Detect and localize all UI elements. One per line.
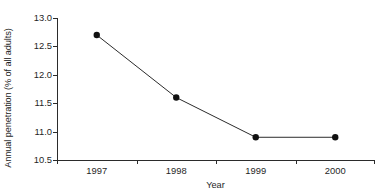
x-axis-title: Year	[0, 180, 385, 190]
x-axis-tick-mark	[57, 160, 58, 164]
y-axis-tick-mark	[53, 18, 57, 19]
x-axis-tick-mark	[137, 160, 138, 164]
x-axis-tick-label-group: 1997199819992000	[57, 166, 375, 180]
x-axis-tick-label: 2000	[305, 166, 365, 175]
x-axis-tick-mark	[216, 160, 217, 164]
plot-area	[57, 18, 375, 160]
data-point-marker	[253, 134, 259, 140]
y-axis-tick-label: 12.0	[24, 70, 52, 79]
y-axis-tick-mark	[53, 75, 57, 76]
y-axis-tick-label: 13.0	[24, 13, 52, 22]
y-axis-tick-mark	[53, 46, 57, 47]
x-axis-title-text: Year	[206, 180, 225, 190]
y-axis-title: Annual penetration (% of all adults)	[0, 0, 16, 196]
data-point-marker	[332, 134, 338, 140]
y-axis-tick-mark	[53, 132, 57, 133]
data-point-marker	[94, 32, 100, 38]
y-axis-tick-label: 10.5	[24, 155, 52, 164]
series-line	[97, 35, 336, 137]
y-axis-tick-mark	[53, 103, 57, 104]
y-axis-tick-label: 11.0	[24, 127, 52, 136]
y-axis-tick-label: 11.5	[24, 98, 52, 107]
line-chart-figure: Annual penetration (% of all adults) 13.…	[0, 0, 385, 196]
y-axis-tick-label-group: 13.012.512.011.511.010.5	[21, 0, 52, 196]
x-axis-tick-label: 1998	[146, 166, 206, 175]
x-axis-tick-mark	[296, 160, 297, 164]
data-point-marker	[173, 94, 179, 100]
data-series-annual-penetration	[57, 18, 375, 160]
x-axis-tick-label: 1997	[67, 166, 127, 175]
y-axis-tick-label: 12.5	[24, 42, 52, 51]
x-axis-tick-mark	[374, 160, 375, 164]
x-axis-tick-label: 1999	[226, 166, 286, 175]
